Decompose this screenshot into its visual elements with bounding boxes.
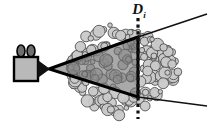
foliage-blob (141, 53, 148, 60)
foliage-blob (100, 54, 113, 67)
foliage-blob (107, 106, 114, 113)
foliage-blob (116, 30, 126, 40)
figure-root: Di (0, 0, 213, 130)
camera-reel-right-icon (27, 45, 35, 57)
foliage-blob (88, 36, 93, 41)
foliage-blob (93, 25, 105, 37)
foliage-blob (174, 68, 182, 76)
foliage-blob (126, 74, 134, 82)
foliage-blob (158, 89, 163, 94)
foliage-blob (82, 71, 88, 77)
foliage-blob (108, 23, 113, 28)
foliage-blob (89, 87, 98, 96)
foliage-blob (113, 110, 124, 121)
foliage-blob (132, 48, 137, 53)
foliage-blob (151, 53, 157, 59)
foliage-blob (158, 78, 169, 89)
foliage-blob (127, 29, 133, 35)
camera-view-frustum-diagram: Di (0, 0, 213, 130)
foliage-blob (150, 37, 155, 42)
foliage-blob (139, 47, 144, 52)
foliage-blob (142, 89, 148, 95)
foliage-blob (124, 106, 129, 111)
foliage-blob (68, 62, 80, 74)
depth-plane-label-main: D (131, 1, 143, 17)
foliage-blob (81, 95, 93, 107)
foliage-blob (143, 66, 153, 76)
foliage-blob (140, 101, 150, 111)
camera-body (14, 57, 38, 81)
foliage-blob (168, 60, 176, 68)
camera-reel-left-icon (17, 45, 25, 57)
foliage-blob (125, 56, 131, 62)
foliage-blob (113, 75, 122, 84)
foliage-blob (160, 44, 167, 51)
foliage-blob (90, 59, 95, 64)
foliage-blob (165, 70, 170, 75)
